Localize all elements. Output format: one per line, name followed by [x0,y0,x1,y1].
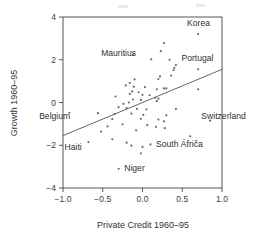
point-label: Belgium [39,111,70,121]
y-axis: −4−2024 Growth 1960–95 [9,12,63,193]
data-point [111,138,113,140]
data-point [170,74,172,76]
data-point [126,142,128,144]
data-point [133,78,135,80]
trend-line [63,69,222,135]
point-label: Mauritius [101,48,136,58]
data-point [149,94,151,96]
data-point [133,86,135,88]
chart-svg: −1.0−0.50.00.51.0 Private Credit 1960–95… [0,0,280,241]
data-point [156,100,158,102]
data-point [173,67,175,69]
data-point [111,118,113,120]
data-point [118,168,120,170]
data-point [130,145,132,147]
data-point [100,130,102,132]
data-point [156,88,158,90]
data-point [118,106,120,108]
data-point [175,108,177,110]
data-point [163,87,165,89]
data-point [130,113,132,115]
data-point [165,87,167,89]
data-point [165,114,167,116]
data-point [132,98,134,100]
data-point [172,69,174,71]
scatter-chart: −1.0−0.50.00.51.0 Private Credit 1960–95… [0,0,280,241]
data-point [164,127,166,129]
y-tick-label: −2 [46,140,56,150]
data-point [159,75,161,77]
data-point [157,98,159,100]
data-point [140,152,142,154]
data-point [197,88,199,90]
data-point [163,42,165,44]
x-axis: −1.0−0.50.00.51.0 Private Credit 1960–95 [55,188,229,230]
y-tick-label: 0 [51,98,56,108]
data-point [160,50,162,52]
data-point [128,101,130,103]
point-label: Haiti [65,142,82,152]
data-point [197,68,199,70]
data-point [140,118,142,120]
data-point [150,58,152,60]
y-axis-title: Growth 1960–95 [9,70,19,137]
point-label: South Áfriča [156,139,203,149]
y-tick-label: 4 [51,12,56,22]
data-point [136,108,138,110]
data-point [114,95,116,97]
data-point [144,86,146,88]
data-point [114,113,116,115]
data-point [126,107,128,109]
data-point [97,112,99,114]
data-point [155,126,157,128]
x-axis-title: Private Credit 1960–95 [97,220,189,230]
data-point [142,114,144,116]
x-tick-label: 0.5 [176,194,188,204]
y-tick-label: 2 [51,55,56,65]
data-point [157,78,159,80]
scan-artifact [196,4,205,7]
y-tick-label: −4 [46,183,56,193]
data-point [125,84,127,86]
point-label: Korea [187,18,210,28]
data-point [189,135,191,137]
point-label: Switzerland [201,111,246,121]
data-point [146,124,148,126]
point-label: Niger [124,163,145,173]
data-point [137,91,139,93]
data-point [140,99,142,101]
data-point [131,90,133,92]
data-point [145,108,147,110]
data-point [87,141,89,143]
data-point [129,93,131,95]
x-tick-label: −0.5 [94,194,111,204]
data-point [163,120,165,122]
data-point [197,33,199,35]
data-point [157,119,159,121]
x-tick-label: 0.0 [137,194,149,204]
data-point [122,103,124,105]
data-point [135,129,137,131]
data-point [154,97,156,99]
scan-artifacts [118,4,205,8]
data-point [149,143,151,145]
scan-artifact [118,5,128,8]
data-point [122,123,124,125]
regression-line [63,69,222,135]
data-point [141,146,143,148]
data-point [106,125,108,127]
x-tick-label: 1.0 [216,194,228,204]
data-point [168,59,170,61]
data-point [175,64,177,66]
x-tick-label: −1.0 [55,194,72,204]
data-point [141,94,143,96]
data-point [129,82,131,84]
point-label: Portugal [181,53,213,63]
